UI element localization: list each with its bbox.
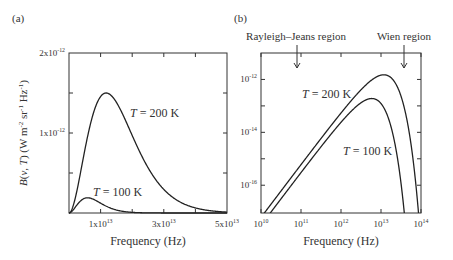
x-tick-label: 1014 (414, 218, 429, 229)
annotation-100k-a: T = 100 K (93, 185, 142, 199)
annotation-200k-a: T = 200 K (130, 106, 179, 120)
x-tick-label: 1011 (294, 218, 309, 229)
annotation-100k-b: T = 100 K (343, 144, 392, 158)
wien-label: Wien region (377, 30, 432, 42)
plot-frame-b (261, 53, 421, 213)
y-tick-label: 2x10-12 (39, 47, 65, 58)
rayleigh-jeans-label: Rayleigh–Jeans region (246, 30, 346, 42)
curve-a-100K (69, 198, 227, 213)
x-axis-title-b: Frequency (Hz) (303, 234, 379, 248)
panel-label-a: (a) (12, 12, 25, 25)
panel-label-b: (b) (234, 12, 247, 25)
y-tick-label: 10-12 (240, 73, 257, 84)
x-axis-title-a: Frequency (Hz) (110, 234, 186, 248)
x-tick-label: 1012 (334, 218, 349, 229)
x-tick-label: 3x1013 (152, 218, 176, 229)
y-tick-label: 10-16 (240, 179, 257, 190)
annotation-200k-b: T = 200 K (302, 87, 351, 101)
x-tick-label: 1010 (254, 218, 269, 229)
y-axis-title-a: B(ν, T) (W m-2 sr-1 Hz-1) (17, 80, 30, 186)
x-tick-label: 1x1013 (89, 218, 113, 229)
figure: 1x10133x10135x10131x10-122x10-12T = 200 … (0, 0, 453, 260)
y-tick-label: 1x10-12 (39, 127, 65, 138)
x-tick-label: 5x1013 (215, 218, 239, 229)
x-tick-label: 1013 (374, 218, 389, 229)
y-tick-label: 10-14 (240, 126, 257, 137)
